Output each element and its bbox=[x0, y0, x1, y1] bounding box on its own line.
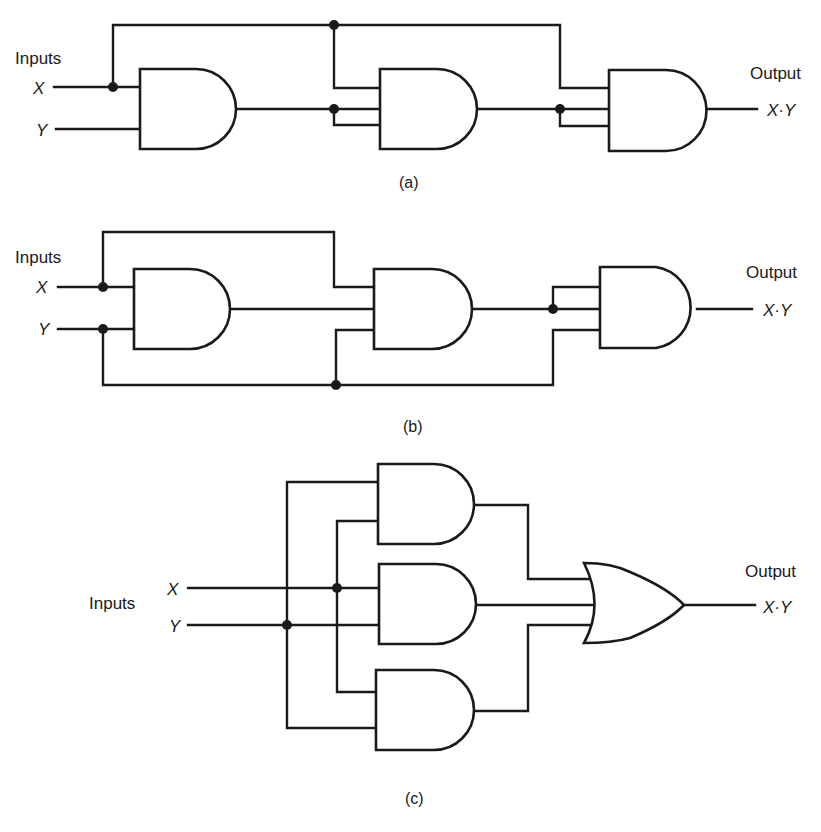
and-gate-2 bbox=[374, 269, 472, 349]
figure-caption: (b) bbox=[403, 418, 423, 435]
wire-x-to-g2 bbox=[334, 25, 380, 88]
circuit-c: Inputs X Y Output X·Y (c) bbox=[89, 464, 796, 807]
circuit-a: Inputs X Y Output X·Y (a) bbox=[15, 20, 801, 191]
input-y-label: Y bbox=[38, 320, 51, 339]
wire-g3-out bbox=[474, 625, 590, 711]
input-y-label: Y bbox=[36, 121, 49, 140]
and-gate-2 bbox=[379, 564, 476, 644]
and-gate-3 bbox=[376, 670, 474, 750]
output-expression: X·Y bbox=[762, 301, 793, 320]
and-gate-3 bbox=[600, 267, 691, 348]
or-gate bbox=[584, 563, 684, 643]
junction-dot bbox=[282, 620, 292, 630]
output-label: Output bbox=[750, 64, 801, 83]
and-gate-2 bbox=[380, 69, 477, 149]
input-x-label: X bbox=[166, 580, 179, 599]
output-expression: X·Y bbox=[762, 598, 793, 617]
inputs-label: Inputs bbox=[89, 594, 135, 613]
wire-g1-dup bbox=[334, 109, 380, 125]
output-label: Output bbox=[746, 263, 797, 282]
input-x-label: X bbox=[32, 79, 45, 98]
junction-dot bbox=[98, 324, 108, 334]
junction-dot bbox=[332, 583, 342, 593]
wire-g2-dup bbox=[553, 287, 598, 309]
figure-caption: (c) bbox=[405, 790, 424, 807]
output-expression: X·Y bbox=[766, 101, 797, 120]
junction-dot bbox=[331, 380, 341, 390]
and-gate-3 bbox=[609, 70, 706, 151]
and-gate-1 bbox=[140, 69, 236, 149]
wire-g1-out bbox=[474, 505, 590, 579]
inputs-label: Inputs bbox=[15, 248, 61, 267]
junction-dot bbox=[98, 282, 108, 292]
wire-x-bus bbox=[337, 521, 378, 692]
output-label: Output bbox=[745, 562, 796, 581]
junction-dot bbox=[548, 304, 558, 314]
circuit-b: Inputs X Y Output X·Y (b) bbox=[15, 232, 797, 435]
input-y-label: Y bbox=[169, 617, 182, 636]
wire-y-to-g2 bbox=[336, 330, 374, 385]
and-gate-1 bbox=[378, 464, 474, 544]
logic-circuits-figure: Inputs X Y Output X·Y (a) Inputs X Y bbox=[0, 0, 821, 832]
junction-dot bbox=[108, 82, 118, 92]
junction-dot bbox=[555, 104, 565, 114]
input-x-label: X bbox=[35, 278, 48, 297]
junction-dot bbox=[329, 20, 339, 30]
wire-g2-dup bbox=[560, 109, 610, 126]
and-gate-1 bbox=[134, 269, 230, 349]
junction-dot bbox=[329, 104, 339, 114]
inputs-label: Inputs bbox=[15, 49, 61, 68]
figure-caption: (a) bbox=[399, 174, 419, 191]
